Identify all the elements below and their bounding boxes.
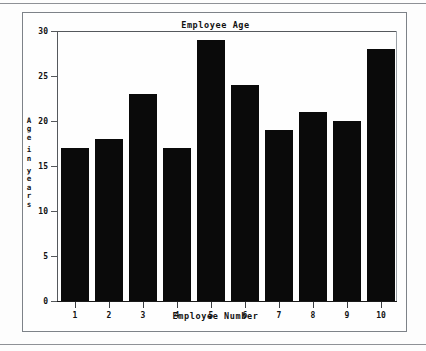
plot-area: 051015202530 12345678910 bbox=[57, 31, 397, 301]
y-axis-tick-label: 10 bbox=[38, 207, 48, 216]
bar bbox=[231, 85, 258, 301]
page-rule-bottom bbox=[0, 344, 426, 345]
bar bbox=[197, 40, 224, 301]
bar bbox=[333, 121, 360, 301]
x-axis-tick-mark bbox=[245, 302, 246, 308]
x-axis-tick-mark bbox=[381, 302, 382, 308]
bar bbox=[129, 94, 156, 301]
y-axis-tick-mark bbox=[51, 301, 57, 302]
y-axis-tick-mark bbox=[51, 76, 57, 77]
y-axis-title-char: e bbox=[23, 134, 35, 142]
bar bbox=[95, 139, 122, 301]
x-axis-tick-mark bbox=[109, 302, 110, 308]
y-axis-tick-mark bbox=[51, 256, 57, 257]
y-axis-tick-label: 20 bbox=[38, 117, 48, 126]
y-axis-tick-label: 15 bbox=[38, 162, 48, 171]
bar bbox=[299, 112, 326, 301]
bar bbox=[61, 148, 88, 301]
y-axis-tick-label: 0 bbox=[43, 297, 48, 306]
bar-series bbox=[58, 31, 397, 301]
x-axis-tick-mark bbox=[177, 302, 178, 308]
axis-spine-bottom bbox=[57, 301, 397, 302]
chart-figure: Employee Age Ageinyears 051015202530 123… bbox=[22, 12, 407, 332]
y-axis-tick-label: 25 bbox=[38, 72, 48, 81]
x-axis-tick-mark bbox=[279, 302, 280, 308]
y-axis-tick-label: 30 bbox=[38, 27, 48, 36]
x-axis-tick-mark bbox=[143, 302, 144, 308]
y-axis-title-char: n bbox=[23, 155, 35, 163]
y-axis-tick-mark bbox=[51, 121, 57, 122]
bar bbox=[163, 148, 190, 301]
bar bbox=[367, 49, 394, 301]
y-axis-tick-mark bbox=[51, 211, 57, 212]
y-axis-title: Ageinyears bbox=[23, 117, 35, 209]
chart-title: Employee Age bbox=[23, 20, 408, 30]
page-rule-top bbox=[0, 3, 426, 4]
x-axis-tick-mark bbox=[313, 302, 314, 308]
bar bbox=[265, 130, 292, 301]
x-axis-tick-mark bbox=[75, 302, 76, 308]
x-axis-tick-mark bbox=[211, 302, 212, 308]
y-axis-tick-label: 5 bbox=[43, 252, 48, 261]
y-axis-tick-mark bbox=[51, 31, 57, 32]
y-axis-title-char: s bbox=[23, 201, 35, 209]
x-axis-title: Employee Number bbox=[23, 311, 408, 321]
x-axis-tick-mark bbox=[347, 302, 348, 308]
y-axis-tick-mark bbox=[51, 166, 57, 167]
